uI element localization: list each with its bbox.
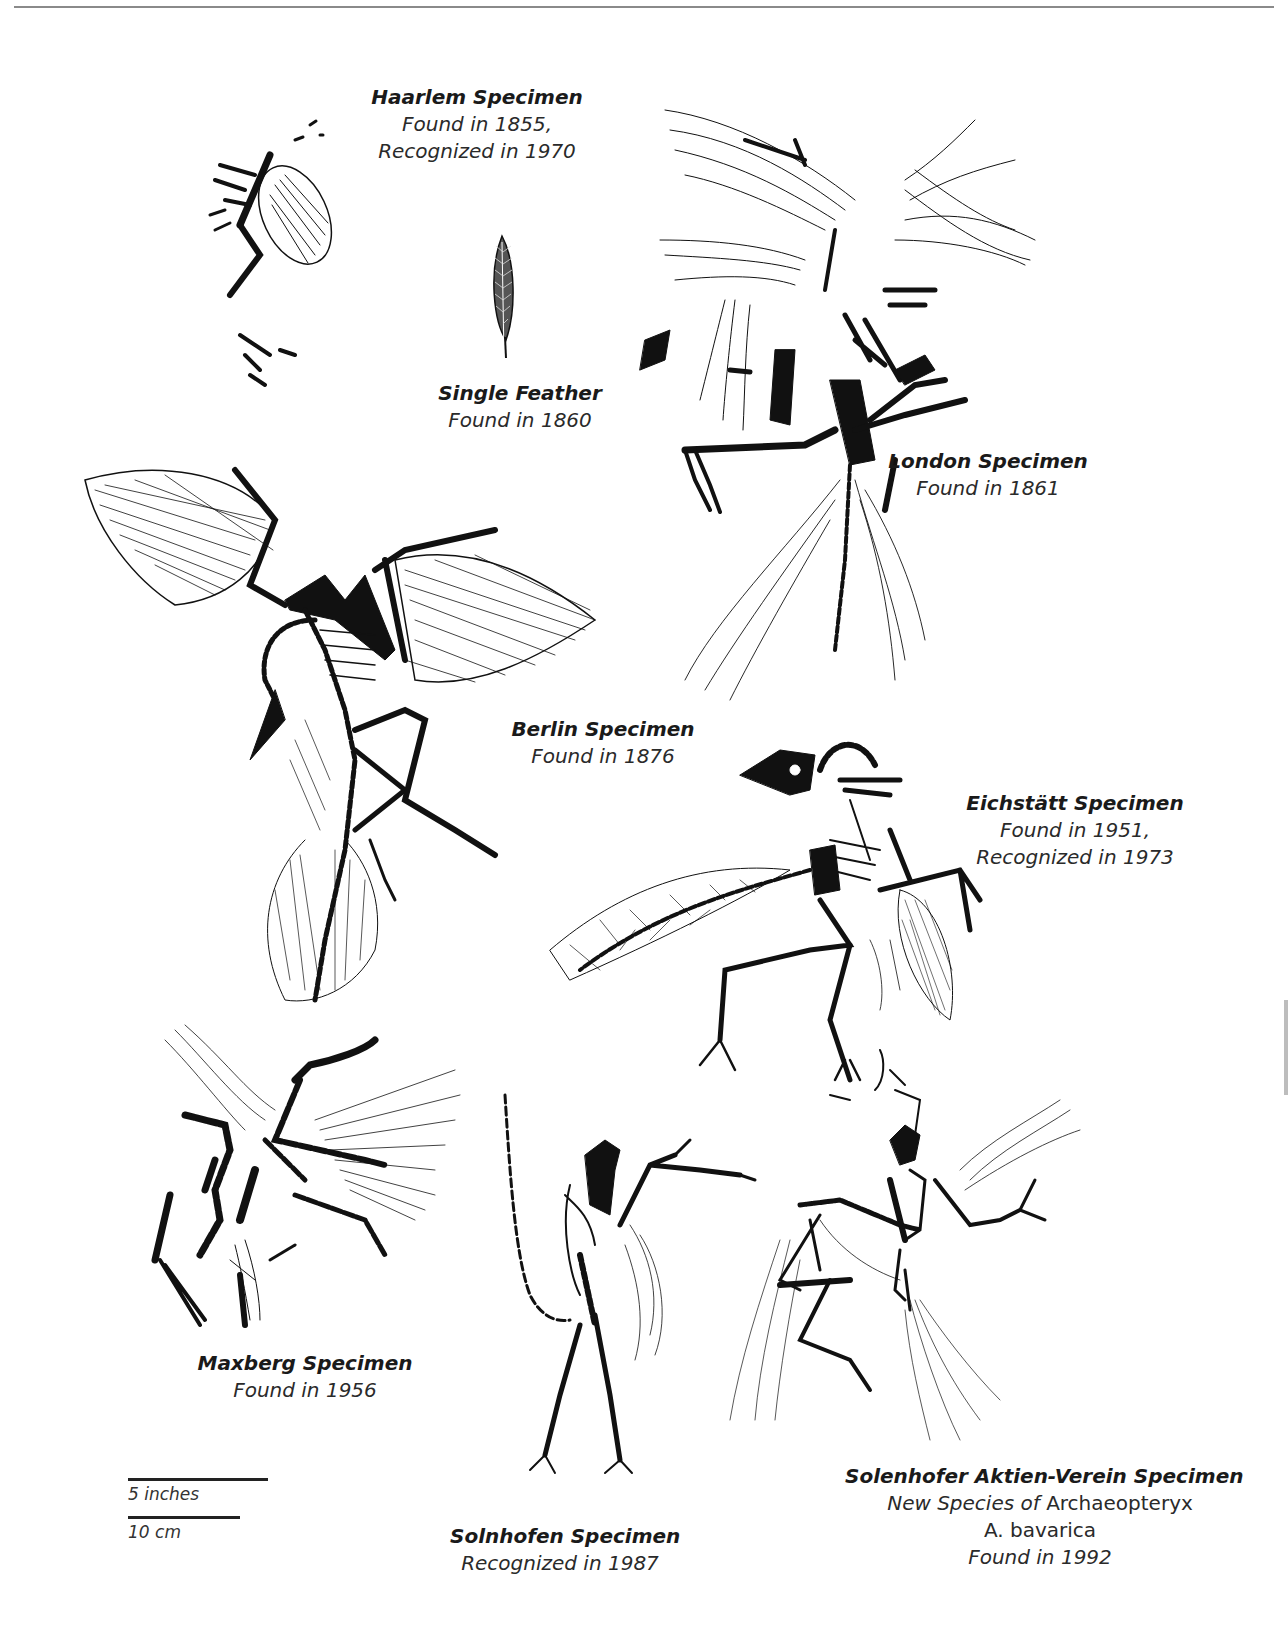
specimen-name: Maxberg Specimen — [190, 1350, 420, 1377]
header-rule — [14, 6, 1274, 8]
specimen-found: Found in 1951, — [955, 817, 1195, 844]
single-feather-drawing — [482, 232, 522, 362]
specimen-found: Found in 1956 — [190, 1377, 420, 1404]
london-specimen-drawing — [655, 100, 1035, 710]
genus-name: Archaeopteryx — [1046, 1491, 1193, 1515]
species-name: A. bavarica — [845, 1517, 1235, 1544]
specimen-recognized: Recognized in 1970 — [352, 138, 602, 165]
specimen-found: Found in 1855, — [352, 111, 602, 138]
specimen-name: Single Feather — [410, 380, 630, 407]
specimen-name: London Specimen — [868, 448, 1108, 475]
haarlem-specimen-label: Haarlem Specimen Found in 1855, Recogniz… — [352, 84, 602, 165]
specimen-found: Found in 1992 — [845, 1544, 1235, 1571]
page-edge-tab — [1284, 1000, 1288, 1095]
specimen-species: New Species of Archaeopteryx — [845, 1490, 1235, 1517]
solenhofer-aktien-verein-specimen-label: Solenhofer Aktien-Verein Specimen New Sp… — [845, 1463, 1235, 1571]
specimen-found: Found in 1860 — [410, 407, 630, 434]
haarlem-specimen-drawing — [200, 105, 340, 395]
specimen-recognized: Recognized in 1973 — [955, 844, 1195, 871]
maxberg-specimen-drawing — [145, 1020, 465, 1340]
solnhofen-specimen-label: Solnhofen Specimen Recognized in 1987 — [450, 1523, 670, 1577]
specimen-name: Solnhofen Specimen — [450, 1523, 670, 1550]
specimen-name: Solenhofer Aktien-Verein Specimen — [845, 1463, 1235, 1490]
specimen-name: Eichstätt Specimen — [955, 790, 1195, 817]
single-feather-label: Single Feather Found in 1860 — [410, 380, 630, 434]
specimen-found: Found in 1861 — [868, 475, 1108, 502]
scale-label-cm: 10 cm — [128, 1522, 181, 1542]
scale-label-inches: 5 inches — [128, 1484, 199, 1504]
eichstatt-specimen-drawing — [540, 720, 980, 1080]
species-prefix: New Species of — [887, 1491, 1040, 1515]
scale-bar-cm — [128, 1516, 240, 1519]
maxberg-specimen-label: Maxberg Specimen Found in 1956 — [190, 1350, 420, 1404]
scale-bar-inches — [128, 1478, 268, 1481]
specimen-recognized: Recognized in 1987 — [450, 1550, 670, 1577]
solenhofer-aktien-verein-specimen-drawing — [720, 1040, 1140, 1460]
specimen-name: Haarlem Specimen — [352, 84, 602, 111]
eichstatt-specimen-label: Eichstätt Specimen Found in 1951, Recogn… — [955, 790, 1195, 871]
london-specimen-label: London Specimen Found in 1861 — [868, 448, 1108, 502]
